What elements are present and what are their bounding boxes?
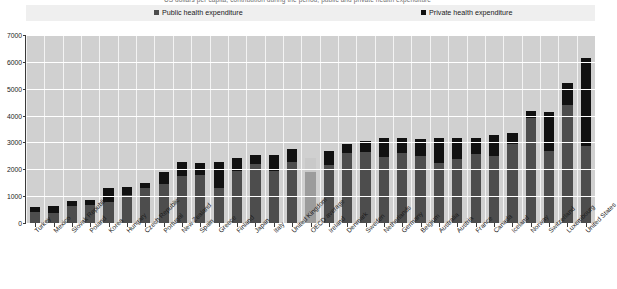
bar-group [232, 158, 242, 223]
chart-legend: Public health expenditure Private health… [26, 5, 595, 21]
bar-group [342, 144, 352, 223]
bar-segment-private [562, 83, 572, 104]
vertical-gridline [320, 35, 321, 223]
vertical-gridline [191, 35, 192, 223]
bar-group [30, 207, 40, 223]
bar-group [379, 138, 389, 223]
bar-segment-private [269, 155, 279, 171]
x-axis: TurkeyMexicoSlovak RepublicPolandKoreaHu… [26, 223, 595, 289]
bar-segment-private [397, 138, 407, 154]
bar-segment-public [122, 195, 132, 223]
plot-area-wrapper [0, 27, 595, 227]
plot-area [26, 35, 595, 223]
bar-group [581, 58, 591, 223]
gridline [26, 35, 595, 36]
legend-item-public: Public health expenditure [154, 8, 243, 17]
gridline [26, 169, 595, 170]
vertical-gridline [558, 35, 559, 223]
bar-segment-private [324, 151, 334, 166]
vertical-gridline [154, 35, 155, 223]
bar-group [507, 133, 517, 223]
bar-segment-public [544, 151, 554, 224]
vertical-gridline [338, 35, 339, 223]
bar-group [269, 155, 279, 223]
gridline [26, 89, 595, 90]
vertical-gridline [393, 35, 394, 223]
bar-segment-private [122, 187, 132, 195]
bar-group [471, 138, 481, 223]
bar-segment-private [471, 138, 481, 155]
vertical-gridline [448, 35, 449, 223]
vertical-gridline [577, 35, 578, 223]
bar-group [562, 83, 572, 223]
private-swatch-icon [421, 10, 426, 15]
bar-segment-private [379, 138, 389, 157]
vertical-gridline [430, 35, 431, 223]
vertical-gridline [411, 35, 412, 223]
vertical-gridline [301, 35, 302, 223]
bar-segment-private [159, 172, 169, 184]
vertical-gridline [99, 35, 100, 223]
bar-segment-private [214, 162, 224, 188]
vertical-gridline [136, 35, 137, 223]
bar-segment-private [140, 183, 150, 188]
vertical-gridline [246, 35, 247, 223]
bar-segment-private [544, 112, 554, 150]
legend-label-public: Public health expenditure [162, 8, 243, 17]
vertical-gridline [485, 35, 486, 223]
bar-group [434, 138, 444, 223]
vertical-gridline [503, 35, 504, 223]
vertical-gridline [283, 35, 284, 223]
bar-segment-private [67, 201, 77, 206]
vertical-gridline [26, 35, 27, 223]
bar-group [250, 155, 260, 223]
vertical-gridline [44, 35, 45, 223]
bar-segment-public [471, 154, 481, 223]
vertical-gridline [81, 35, 82, 223]
chart-subtitle: US dollars per capita, contribution duri… [0, 0, 595, 4]
bar-segment-public [526, 118, 536, 223]
legend-item-private: Private health expenditure [421, 8, 513, 17]
vertical-gridline [522, 35, 523, 223]
vertical-gridline [375, 35, 376, 223]
bar-segment-public [287, 162, 297, 223]
gridline [26, 196, 595, 197]
gridline [26, 116, 595, 117]
bar-segment-public [214, 188, 224, 223]
bar-segment-private [342, 144, 352, 153]
bar-group [544, 112, 554, 223]
bar-group [214, 162, 224, 223]
bar-segment-public [507, 144, 517, 223]
vertical-gridline [63, 35, 64, 223]
vertical-gridline [356, 35, 357, 223]
bar-segment-private [452, 138, 462, 158]
bar-series-container [26, 35, 595, 223]
bar-segment-private [30, 207, 40, 212]
bar-segment-private [489, 135, 499, 155]
bar-segment-private [581, 58, 591, 147]
bar-segment-public [489, 156, 499, 223]
vertical-gridline [265, 35, 266, 223]
bar-segment-private [48, 206, 58, 213]
gridline [26, 62, 595, 63]
vertical-gridline [467, 35, 468, 223]
bar-segment-public [342, 153, 352, 223]
bar-segment-private [287, 149, 297, 162]
bar-group [526, 111, 536, 223]
bar-group [489, 135, 499, 223]
vertical-gridline [210, 35, 211, 223]
vertical-gridline [173, 35, 174, 223]
vertical-gridline [228, 35, 229, 223]
vertical-gridline [540, 35, 541, 223]
gridline [26, 142, 595, 143]
bar-group [287, 149, 297, 223]
bar-group [452, 138, 462, 223]
bar-segment-private [526, 111, 536, 119]
public-swatch-icon [154, 10, 159, 15]
legend-label-private: Private health expenditure [429, 8, 513, 17]
vertical-gridline [118, 35, 119, 223]
bar-segment-private [250, 155, 260, 164]
bar-group [122, 187, 132, 223]
